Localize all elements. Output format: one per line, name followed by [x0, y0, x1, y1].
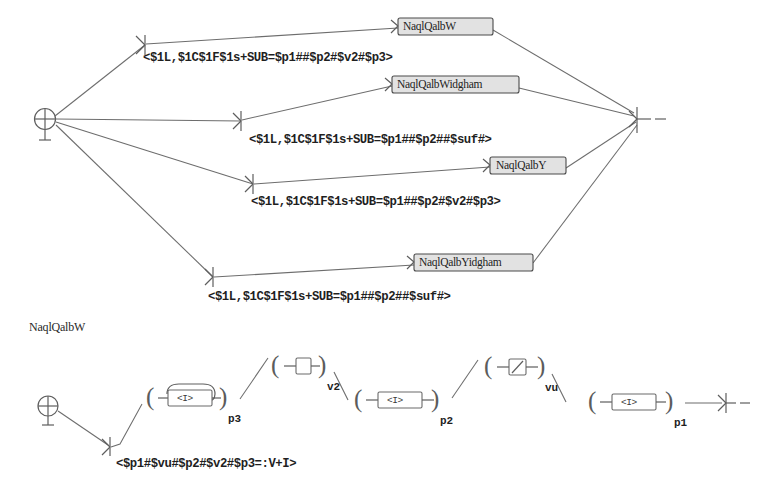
- arc-label-3: <$1L,$1C$1F$1s+SUB=$p1##$p2#$v2#$p3>: [251, 196, 500, 208]
- group-v2-close-paren: ): [318, 352, 326, 377]
- group-p2-box-text: <I>: [387, 396, 403, 406]
- transition-arrowhead-lower: [102, 437, 110, 456]
- group-p2-subscript: p2: [440, 416, 453, 427]
- group-p1-subscript: p1: [674, 418, 687, 429]
- group-v2-shape: [284, 358, 320, 374]
- group-v2-open-paren: (: [271, 352, 279, 377]
- end-arrowhead-bar-icon-lower: [718, 393, 750, 413]
- figure-canvas: [0, 0, 776, 504]
- arc-label-1: <$1L,$1C$1F$1s+SUB=$p1##$p2#$v2#$p3>: [143, 52, 392, 64]
- start-circle-cross-icon-lower: [38, 396, 58, 425]
- group-vu-open-paren: (: [484, 353, 492, 378]
- state-label-naqlqalbyidgham[interactable]: NaqlQalbYidgham: [419, 257, 501, 269]
- state-label-naqlqalbwidgham[interactable]: NaqlQalbWidgham: [397, 79, 482, 91]
- arc-label-2: <$1L,$1C$1F$1s+SUB=$p1##$p2##$suf#>: [249, 134, 492, 146]
- group-p2-close-paren: ): [431, 386, 439, 411]
- group-p3-close-paren: ): [219, 384, 227, 409]
- group-p1-close-paren: ): [665, 388, 673, 413]
- group-p3-subscript: p3: [228, 414, 241, 425]
- lower-graph-caption: NaqlQalbW: [29, 320, 85, 335]
- state-label-naqlqalbw[interactable]: NaqlQalbW: [403, 21, 456, 33]
- start-circle-cross-icon-upper: [35, 109, 56, 141]
- arc-arrowhead-4: [205, 267, 213, 287]
- group-p1-box-text: <I>: [621, 398, 637, 408]
- arc-label-4: <$1L,$1C$1F$1s+SUB=$p1##$p2##$suf#>: [208, 291, 451, 303]
- group-vu-shape: [497, 359, 538, 375]
- group-p3-box-text: <I>: [177, 394, 193, 404]
- group-p3-open-paren: (: [146, 384, 154, 409]
- lower-transition-label: <$p1#$vu#$p2#$v2#$p3=:V+I>: [116, 458, 296, 470]
- state-label-naqlqalby[interactable]: NaqlQalbY: [496, 160, 546, 172]
- group-vu-close-paren: ): [537, 353, 545, 378]
- group-vu-subscript: vu: [545, 383, 558, 394]
- group-p2-open-paren: (: [354, 386, 362, 411]
- group-p1-open-paren: (: [588, 388, 596, 413]
- group-v2-subscript: v2: [327, 382, 340, 393]
- figure-root: NaqlQalbW NaqlQalbWidgham NaqlQalbY Naql…: [0, 0, 776, 504]
